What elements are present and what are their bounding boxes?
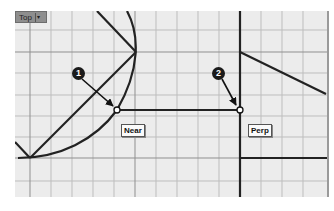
snap-label-perp: Perp bbox=[248, 124, 272, 137]
snap-point-near bbox=[114, 107, 120, 113]
top-viewport[interactable] bbox=[15, 11, 329, 197]
viewport-title-tab[interactable]: Top ▾ bbox=[15, 11, 47, 23]
callout-1: 1 bbox=[72, 67, 85, 80]
callout-2: 2 bbox=[212, 67, 225, 80]
grid bbox=[15, 11, 327, 197]
callout-number: 2 bbox=[216, 68, 221, 78]
snap-point-perp bbox=[237, 107, 243, 113]
viewport-canvas[interactable] bbox=[15, 11, 327, 197]
snap-label-near: Near bbox=[121, 124, 145, 137]
diagonal-line-left bbox=[15, 142, 30, 158]
arrow-2 bbox=[222, 79, 236, 105]
callout-number: 1 bbox=[76, 68, 81, 78]
geometry bbox=[15, 11, 327, 197]
viewport-title: Top bbox=[19, 13, 32, 22]
chevron-down-icon[interactable]: ▾ bbox=[35, 13, 40, 22]
